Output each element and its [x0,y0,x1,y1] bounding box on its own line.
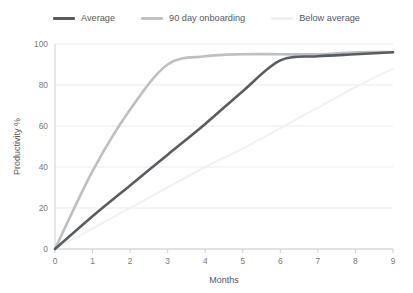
y-tick-label-40: 40 [39,162,49,172]
y-tick-label-0: 0 [43,244,48,254]
x-tick-label-8: 8 [353,256,358,266]
y-tick-label-100: 100 [34,39,48,49]
x-tick-label-7: 7 [316,256,321,266]
y-tick-label-60: 60 [39,121,49,131]
x-tick-label-0: 0 [53,256,58,266]
x-tick-labels: 0123456789 [53,256,396,266]
y-tick-label-80: 80 [39,80,49,90]
x-tick-label-2: 2 [128,256,133,266]
plot-svg: 020406080100 0123456789 Months Productiv… [0,0,413,293]
series-line-average [55,52,393,249]
series-line-90-day-onboarding [55,52,393,249]
y-tick-label-20: 20 [39,203,49,213]
productivity-line-chart: Average 90 day onboarding Below average … [0,0,413,293]
x-axis-title: Months [209,275,239,285]
x-tick-label-9: 9 [391,256,396,266]
plot-area: 020406080100 0123456789 Months Productiv… [0,0,413,293]
x-tick-label-4: 4 [203,256,208,266]
x-tick-label-3: 3 [165,256,170,266]
y-axis-title: Productivity % [12,118,22,175]
series-layer [55,52,393,249]
x-axis [55,249,393,253]
y-tick-labels: 020406080100 [34,39,48,254]
x-tick-label-1: 1 [90,256,95,266]
x-tick-label-5: 5 [240,256,245,266]
x-tick-label-6: 6 [278,256,283,266]
series-line-below-average [55,69,393,249]
